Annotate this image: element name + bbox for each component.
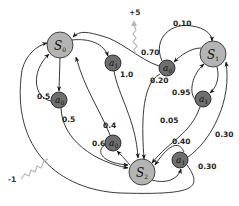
edge-s0-to-s0a0 xyxy=(59,58,60,91)
edge-s2-to-s2a1 xyxy=(152,169,181,182)
edge-s1-to-s1a0 xyxy=(174,48,201,62)
prob-label: 0.5 xyxy=(37,92,50,101)
prob-label: 0.95 xyxy=(172,88,191,97)
state-node-s2: S2 xyxy=(129,159,155,185)
action-node-s0-a0: a0 xyxy=(51,92,67,108)
reward-positive-arrowhead xyxy=(131,20,137,26)
action-node-s1-a1: a1 xyxy=(195,91,211,107)
reward-negative-label: -1 xyxy=(8,175,16,184)
action-node-s1-a0: a0 xyxy=(159,60,175,76)
action-node-s0-a1: a1 xyxy=(105,55,121,71)
prob-label: 0.4 xyxy=(103,121,116,130)
prob-label: 0.20 xyxy=(150,76,169,85)
state-node-s0: S0 xyxy=(47,32,73,58)
edge-s1a0-to-s2 xyxy=(143,74,160,159)
prob-label: 0.30 xyxy=(215,130,234,139)
edge-s0-to-s0a1 xyxy=(72,40,108,56)
action-node-s2-a0: a0 xyxy=(105,135,121,151)
reward-negative-squiggle xyxy=(21,159,48,179)
prob-label: 1.0 xyxy=(120,70,133,79)
reward-positive-label: +5 xyxy=(129,8,141,17)
prob-label: 0.10 xyxy=(173,19,192,28)
edge-s2a1-to-s1 xyxy=(188,62,227,157)
reward-positive-squiggle xyxy=(133,25,137,54)
edge-s2-to-s2a0 xyxy=(117,151,130,165)
prob-label: 0.5 xyxy=(62,115,75,124)
prob-label: 0.30 xyxy=(198,162,217,171)
action-node-s2-a1: a1 xyxy=(172,152,188,168)
state-node-s1: S1 xyxy=(200,41,226,67)
edge-s1-to-s1a1 xyxy=(210,67,218,93)
prob-label: 0.05 xyxy=(160,116,179,125)
prob-label: 0.70 xyxy=(141,48,160,57)
mdp-diagram: 0.5 0.5 1.0 0.70 0.10 0.20 0.95 0.05 0.4… xyxy=(0,0,239,206)
prob-label: 0.40 xyxy=(172,137,191,146)
prob-label: 0.6 xyxy=(92,139,105,148)
